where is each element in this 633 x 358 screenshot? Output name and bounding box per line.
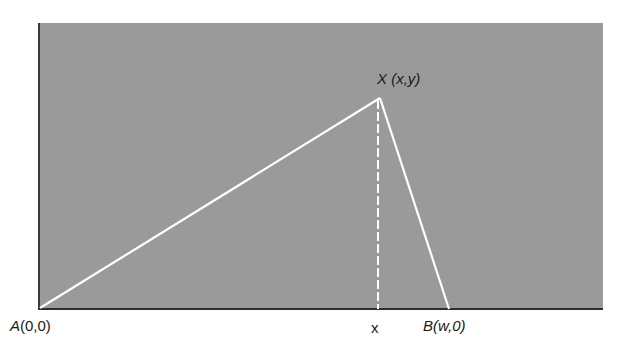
point-x-coords: (x,y) bbox=[391, 70, 420, 87]
point-b-name: B bbox=[423, 317, 433, 334]
foot-x-label: x bbox=[371, 320, 379, 335]
point-a-coords: (0,0) bbox=[20, 317, 51, 334]
triangle-lines bbox=[0, 0, 633, 358]
point-x-name: X bbox=[377, 70, 387, 87]
segment-a-to-x bbox=[40, 98, 380, 308]
point-a-label: A(0,0) bbox=[10, 318, 51, 333]
point-b-coords: (w,0) bbox=[433, 317, 466, 334]
point-b-label: B(w,0) bbox=[423, 318, 466, 333]
point-x-label: X (x,y) bbox=[377, 71, 420, 86]
segment-x-to-b bbox=[380, 98, 449, 309]
point-a-name: A bbox=[10, 317, 20, 334]
diagram-canvas: X (x,y) A(0,0) x B(w,0) bbox=[0, 0, 633, 358]
